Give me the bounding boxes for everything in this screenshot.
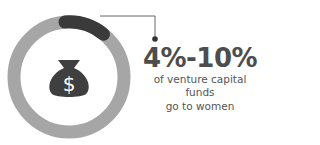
- stat-block: 4%-10% of venture capital funds go to wo…: [140, 44, 260, 113]
- ring-highlight-arc: [65, 22, 104, 34]
- stat-value: 4%-10%: [140, 44, 260, 72]
- svg-text:$: $: [63, 72, 76, 96]
- stat-caption-line-2: go to women: [140, 100, 260, 113]
- connector-dot: [152, 36, 158, 42]
- money-bag-dollar-icon: $: [49, 60, 88, 97]
- stat-caption-line-1: of venture capital funds: [140, 73, 260, 99]
